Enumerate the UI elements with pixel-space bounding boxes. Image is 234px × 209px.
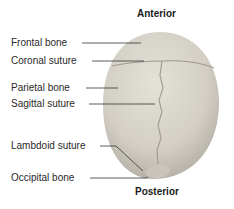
posterior-heading: Posterior	[135, 186, 179, 197]
label-parietal-bone: Parietal bone	[11, 82, 70, 93]
label-sagittal-suture: Sagittal suture	[11, 98, 75, 109]
label-occipital-bone: Occipital bone	[11, 172, 74, 183]
anterior-heading: Anterior	[137, 8, 176, 19]
leader-occipital-bone	[90, 177, 148, 178]
skull-top-view	[103, 32, 219, 179]
label-frontal-bone: Frontal bone	[11, 37, 67, 48]
label-lambdoid-suture: Lambdoid suture	[11, 140, 86, 151]
label-coronal-suture: Coronal suture	[11, 55, 77, 66]
